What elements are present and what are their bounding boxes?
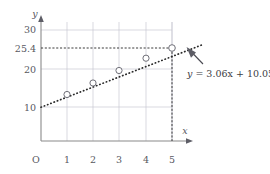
data-point: [64, 91, 70, 97]
equation-label: y = 3.06x + 10.05: [186, 68, 270, 79]
chart-canvas: 30 25.4 20 10 1 2 3 4 5 O y x y = 3.06x …: [0, 0, 270, 174]
regression-line: [41, 45, 203, 108]
x-axis-label: x: [182, 125, 188, 136]
y-tick-label-20: 20: [24, 64, 36, 75]
x-tick-label-4: 4: [143, 154, 149, 165]
x-tick-label-5: 5: [169, 154, 175, 165]
scatter-plot-figure: 30 25.4 20 10 1 2 3 4 5 O y x y = 3.06x …: [0, 0, 270, 174]
y-axis: [38, 15, 44, 141]
data-point: [143, 55, 149, 61]
equation-label-rest: = 3.06x + 10.05: [192, 68, 270, 79]
x-axis: [41, 138, 193, 143]
y-tick-label-30: 30: [24, 24, 36, 35]
origin-label: O: [32, 154, 40, 165]
x-axis-arrowhead: [186, 138, 193, 143]
x-tick-label-3: 3: [116, 154, 122, 165]
x-tick-label-1: 1: [64, 154, 70, 165]
data-point: [90, 80, 96, 86]
y-axis-label: y: [31, 8, 38, 19]
data-point: [116, 67, 122, 73]
data-points: [64, 45, 175, 98]
y-tick-label-10: 10: [24, 102, 36, 113]
vertical-gridlines: [67, 22, 172, 141]
annotation-arrow: [187, 47, 204, 64]
y-tick-label-25-4: 25.4: [15, 43, 36, 54]
y-axis-arrowhead: [38, 15, 44, 22]
prediction-guides: [41, 48, 172, 141]
data-point-predicted: [169, 45, 176, 52]
x-tick-label-2: 2: [90, 154, 96, 165]
